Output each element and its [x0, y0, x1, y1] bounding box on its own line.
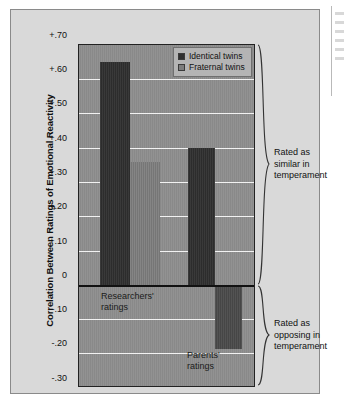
legend-swatch-icon: [178, 64, 185, 71]
edge-text-line: [335, 21, 344, 24]
gridline: [79, 353, 254, 354]
bar-identical-researchers: [100, 62, 130, 285]
edge-text-line: [335, 30, 344, 33]
y-tick-label: 0: [23, 270, 67, 280]
edge-text-line: [335, 39, 344, 42]
legend-swatch-icon: [178, 53, 185, 60]
edge-text-line: [335, 12, 344, 15]
y-tick-label: +.60: [23, 64, 67, 74]
annotation-similar: Rated as similar in temperament: [257, 44, 327, 285]
y-tick-label: +.40: [23, 133, 67, 143]
y-tick-label: +.10: [23, 236, 67, 246]
annotation-line: opposing in: [274, 330, 327, 342]
group-label-line: Researchers': [101, 291, 154, 302]
annotation-opposing: Rated as opposing in temperament: [257, 285, 327, 386]
group-label-researchers: Researchers' ratings: [101, 291, 154, 313]
annotation-line: similar in: [274, 159, 327, 171]
group-label-line: Parents': [187, 350, 220, 361]
legend: Identical twins Fraternal twins: [173, 47, 252, 77]
annotation-line: Rated as: [274, 318, 327, 330]
legend-item-identical-twins: Identical twins: [178, 51, 245, 62]
bar-identical-parents: [188, 148, 215, 285]
y-tick-label: +.50: [23, 98, 67, 108]
bar-fraternal-parents: [215, 287, 242, 349]
legend-label: Identical twins: [189, 51, 242, 62]
group-label-line: ratings: [187, 361, 220, 372]
plot-area: Researchers' ratings Parents' ratings Id…: [78, 44, 255, 387]
zero-baseline: [79, 285, 254, 287]
y-tick-label: +.20: [23, 201, 67, 211]
edge-text-line: [335, 48, 344, 51]
legend-item-fraternal-twins: Fraternal twins: [178, 62, 245, 73]
y-tick-label: +.30: [23, 167, 67, 177]
legend-label: Fraternal twins: [189, 62, 245, 73]
y-tick-label: -.10: [23, 304, 67, 314]
annotation-line: Rated as: [274, 147, 327, 159]
annotation-opposing-text: Rated as opposing in temperament: [274, 318, 327, 353]
y-tick-label: +.70: [23, 30, 67, 40]
y-tick-label: -.20: [23, 338, 67, 348]
annotation-similar-text: Rated as similar in temperament: [274, 147, 327, 182]
page-edge-text-sliver: [331, 6, 347, 96]
annotation-line: temperament: [274, 341, 327, 353]
y-tick-label: -.30: [23, 373, 67, 383]
bar-fraternal-researchers: [130, 162, 160, 285]
edge-text-line: [335, 57, 344, 60]
figure-frame: Correlation Between Ratings of Emotional…: [10, 9, 320, 394]
brace-icon: [257, 285, 270, 386]
group-label-parents: Parents' ratings: [187, 350, 220, 372]
group-label-line: ratings: [101, 302, 154, 313]
brace-icon: [257, 44, 270, 285]
annotation-line: temperament: [274, 170, 327, 182]
